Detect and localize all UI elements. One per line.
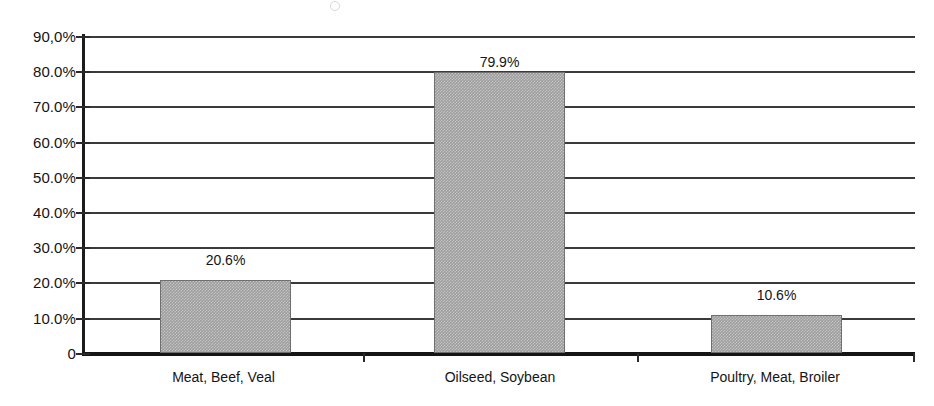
bars-layer: 20.6% 79.9% 10.6% bbox=[0, 0, 934, 406]
x-tick-boundary-3 bbox=[913, 353, 915, 362]
x-axis-label-oilseed-soybean: Oilseed, Soybean bbox=[363, 370, 637, 384]
bar-value-meat-beef-veal: 20.6% bbox=[160, 253, 291, 267]
bar-chart: 90,0% 80.0% 70.0% 60.0% 50.0% 40.0% 30.0… bbox=[0, 0, 934, 406]
x-tick-boundary-1 bbox=[363, 353, 365, 362]
bar-value-poultry-meat-broiler: 10.6% bbox=[711, 288, 842, 302]
bar-poultry-meat-broiler[interactable] bbox=[711, 315, 842, 353]
x-axis-label-poultry-meat-broiler: Poultry, Meat, Broiler bbox=[637, 370, 913, 384]
bar-value-oilseed-soybean: 79.9% bbox=[434, 55, 565, 69]
bar-oilseed-soybean[interactable] bbox=[434, 72, 565, 353]
x-tick-boundary-2 bbox=[637, 353, 639, 362]
bar-meat-beef-veal[interactable] bbox=[160, 280, 291, 353]
x-axis-label-meat-beef-veal: Meat, Beef, Veal bbox=[84, 370, 363, 384]
